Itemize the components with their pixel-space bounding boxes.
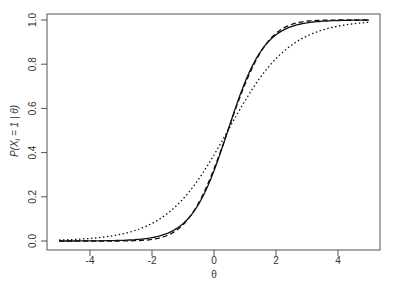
curve-dotted xyxy=(59,22,369,240)
x-axis-label: θ xyxy=(211,269,217,280)
plot-frame xyxy=(47,14,380,250)
svg-text:1.0: 1.0 xyxy=(27,13,38,27)
svg-text:0.6: 0.6 xyxy=(27,101,38,115)
svg-text:0.0: 0.0 xyxy=(27,234,38,248)
svg-text:0.4: 0.4 xyxy=(27,145,38,159)
svg-text:-4: -4 xyxy=(86,255,95,266)
svg-text:0.2: 0.2 xyxy=(27,189,38,203)
curves xyxy=(59,20,369,241)
svg-text:4: 4 xyxy=(335,255,341,266)
y-axis: 0.00.20.40.60.81.0 xyxy=(27,13,47,248)
curve-dashed xyxy=(59,20,369,241)
svg-text:-2: -2 xyxy=(148,255,157,266)
y-axis-label: P(Xi = 1 | θ) xyxy=(9,105,21,157)
svg-text:0: 0 xyxy=(211,255,217,266)
x-axis: -4-2024 xyxy=(86,250,342,266)
svg-text:0.8: 0.8 xyxy=(27,57,38,71)
svg-text:2: 2 xyxy=(273,255,279,266)
curve-solid xyxy=(59,20,369,241)
chart-svg: 0.00.20.40.60.81.0 -4-2024 θ P(Xi = 1 | … xyxy=(0,0,395,295)
chart: 0.00.20.40.60.81.0 -4-2024 θ P(Xi = 1 | … xyxy=(0,0,395,295)
